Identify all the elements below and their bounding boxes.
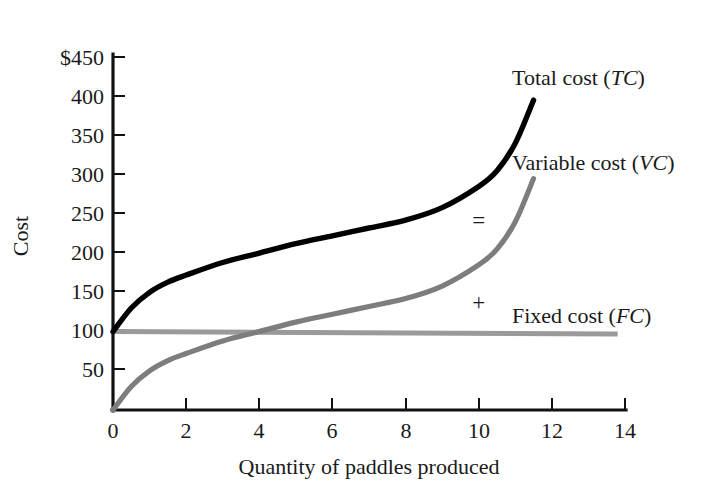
- y-tick-label-150: 150: [71, 279, 104, 304]
- fixed-cost-abbr: FC: [615, 303, 644, 328]
- fixed-cost-label: Fixed cost (FC): [512, 303, 651, 328]
- fixed-cost-curve: [113, 332, 618, 334]
- fixed-cost-label-close: ): [644, 303, 651, 328]
- variable-cost-label: Variable cost (VC): [512, 150, 675, 175]
- equals-sign-annotation: =: [472, 208, 485, 233]
- x-axis-ticks: [186, 398, 625, 410]
- variable-cost-label-text: Variable cost (: [512, 150, 639, 175]
- x-tick-label-8: 8: [401, 418, 412, 443]
- total-cost-label: Total cost (TC): [512, 65, 645, 90]
- x-tick-label-2: 2: [181, 418, 192, 443]
- total-cost-abbr: TC: [611, 65, 638, 90]
- y-tick-label-200: 200: [71, 240, 104, 265]
- total-cost-label-close: ): [638, 65, 645, 90]
- variable-cost-curve: [113, 179, 534, 410]
- x-tick-label-10: 10: [468, 418, 490, 443]
- x-axis-title: Quantity of paddles produced: [239, 454, 500, 479]
- fixed-cost-label-text: Fixed cost (: [512, 303, 616, 328]
- chart-canvas: $450 400 350 300 250 200 150 100 50 0 2 …: [0, 0, 714, 493]
- y-tick-label-350: 350: [71, 123, 104, 148]
- y-tick-label-300: 300: [71, 162, 104, 187]
- y-tick-label-250: 250: [71, 201, 104, 226]
- x-tick-label-14: 14: [614, 418, 636, 443]
- y-tick-label-100: 100: [71, 318, 104, 343]
- y-axis-tick-labels: $450 400 350 300 250 200 150 100 50: [60, 45, 104, 382]
- x-tick-label-6: 6: [327, 418, 338, 443]
- y-axis-title: Cost: [8, 216, 33, 256]
- y-tick-label-450: $450: [60, 45, 104, 70]
- y-tick-label-400: 400: [71, 84, 104, 109]
- plus-sign-annotation: +: [472, 290, 485, 315]
- x-axis-tick-labels: 0 2 4 6 8 10 12 14: [108, 418, 637, 443]
- x-tick-label-4: 4: [254, 418, 265, 443]
- variable-cost-label-close: ): [667, 150, 674, 175]
- y-tick-label-50: 50: [82, 357, 104, 382]
- total-cost-curve: [113, 100, 534, 331]
- total-cost-label-text: Total cost (: [512, 65, 611, 90]
- variable-cost-abbr: VC: [639, 150, 667, 175]
- cost-curves-figure: $450 400 350 300 250 200 150 100 50 0 2 …: [0, 0, 714, 493]
- x-tick-label-12: 12: [541, 418, 563, 443]
- x-tick-label-0: 0: [108, 418, 119, 443]
